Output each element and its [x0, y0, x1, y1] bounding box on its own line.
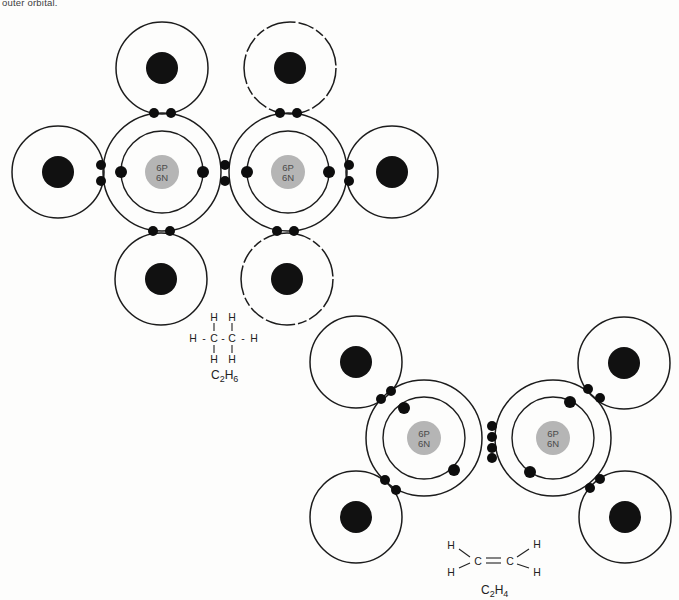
ethylene-structural-formula-label: C2H4 [481, 583, 508, 599]
ethane-hydrogen-right-nucleus [376, 156, 408, 188]
ethane-hydrogen-bottom-right [241, 233, 333, 325]
ethylene-structural-formula-atom-5: H [533, 538, 541, 550]
ethane-structural-formula-atom-10: H [210, 353, 218, 365]
ethane-hydrogen-top-right [244, 22, 336, 114]
ethane-hydrogen-top-left [116, 22, 208, 114]
ethane-bond-electron-1 [149, 108, 159, 118]
ethane-hydrogen-bottom-right-nucleus [271, 263, 303, 295]
ethylene-structural-formula-atom-1: H [447, 539, 455, 551]
ethylene-bond-electron-12 [487, 453, 497, 463]
ethylene-structural-formula-atom-4: C [506, 555, 514, 567]
ethane-structural-formula-label: C2H6 [211, 368, 238, 384]
ethane-hydrogen-right [346, 126, 438, 218]
ethylene-carbon-right-neutron-label: 6N [547, 438, 559, 449]
ethylene-bond-electron-6 [595, 393, 605, 403]
ethylene-bond-electron-9 [487, 421, 497, 431]
ethylene-inner-electron-3 [564, 396, 576, 408]
ethane-inner-electron-2 [197, 166, 209, 178]
ethane-carbon-left-neutron-label: 6N [156, 172, 168, 183]
ethane-structural-formula-atom-5: C [210, 332, 218, 344]
ethane-structural-formula-atom-3: H [189, 332, 197, 344]
ethylene-structural-formula: HHCCHHC2H4 [447, 538, 541, 599]
ethane-hydrogen-left [12, 126, 104, 218]
ethylene-carbon-left-neutron-label: 6N [418, 438, 430, 449]
ethane-structural-formula-atom-11: H [228, 353, 236, 365]
ethane-hydrogen-bottom-left [115, 233, 207, 325]
ethylene-structural-formula-bond-2 [459, 563, 470, 568]
ethane-bond-electron-14 [220, 176, 230, 186]
ethylene-structural-formula-bond-3 [517, 549, 529, 557]
ethane-bond-electron-13 [220, 160, 230, 170]
ethylene-structural-formula-atom-3: C [474, 555, 482, 567]
ethylene-bond-electron-7 [585, 483, 595, 493]
ethylene-bond-electron-4 [391, 485, 401, 495]
ethane-structural-formula-atom-7: C [228, 332, 236, 344]
ethylene-hydrogen-bottom-left-nucleus [340, 501, 372, 533]
ethylene-inner-electron-4 [524, 466, 536, 478]
ethane-bond-electron-11 [272, 226, 282, 236]
ethane-structural-formula: HHH-C-C-HHHC2H6 [189, 311, 258, 384]
ethane-bond-electron-4 [292, 108, 302, 118]
ethylene-bond-electron-8 [595, 474, 605, 484]
textbook-figure-page: outer orbital. 6P6N6P6N6P6N6P6NHHH-C-C-H… [0, 0, 679, 600]
ethylene-bond-electron-2 [386, 386, 396, 396]
ethylene-bond-electron-1 [376, 394, 386, 404]
ethane-bond-electron-5 [96, 160, 106, 170]
ethane-bond-electron-3 [275, 108, 285, 118]
ethylene-carbon-right: 6P6N [495, 380, 611, 496]
ethylene-structural-formula-bond-4 [517, 564, 529, 568]
ethane-inner-electron-4 [323, 166, 335, 178]
ethane-bond-electron-7 [344, 160, 354, 170]
ethane-structural-formula-atom-2: H [228, 311, 236, 323]
ethane-hydrogen-top-left-nucleus [146, 52, 178, 84]
ethylene-inner-electron-2 [448, 464, 460, 476]
ethylene-bond-electron-11 [487, 443, 497, 453]
ethylene-structural-formula-atom-2: H [447, 566, 455, 578]
ethane-structural-formula-atom-6: - [221, 332, 225, 344]
ethylene-structural-formula-bond-1 [459, 549, 470, 557]
ethane-inner-electron-1 [115, 166, 127, 178]
ethane-inner-electron-3 [241, 166, 253, 178]
ethylene-inner-electron-1 [398, 402, 410, 414]
ethylene-bond-electron-10 [487, 432, 497, 442]
ethylene-hydrogen-top-right-nucleus [608, 347, 640, 379]
ethane-structural-formula-atom-4: - [202, 332, 206, 344]
ethane-structural-formula-atom-8: - [241, 332, 245, 344]
ethane-structural-formula-atom-9: H [250, 332, 258, 344]
ethylene-hydrogen-bottom-left [310, 471, 402, 563]
ethane-bond-electron-10 [165, 226, 175, 236]
ethane-hydrogen-bottom-left-nucleus [145, 263, 177, 295]
ethane-bond-electron-12 [289, 226, 299, 236]
bohr-diagram: 6P6N6P6N6P6N6P6NHHH-C-C-HHHC2H6HHCCHHC2H… [0, 0, 679, 600]
ethylene-diagram: 6P6N6P6N [310, 316, 671, 563]
ethylene-hydrogen-bottom-right-nucleus [609, 501, 641, 533]
ethylene-hydrogen-top-left-nucleus [340, 346, 372, 378]
ethane-carbon-right-neutron-label: 6N [282, 172, 294, 183]
ethylene-bond-electron-3 [380, 475, 390, 485]
ethane-bond-electron-2 [166, 108, 176, 118]
ethane-bond-electron-9 [148, 226, 158, 236]
ethane-structural-formula-atom-1: H [210, 311, 218, 323]
ethane-bond-electron-6 [96, 176, 106, 186]
ethylene-bond-electron-5 [583, 384, 593, 394]
ethane-hydrogen-left-nucleus [42, 156, 74, 188]
ethane-bond-electron-8 [344, 176, 354, 186]
ethylene-structural-formula-atom-6: H [533, 566, 541, 578]
ethane-hydrogen-top-right-nucleus [274, 52, 306, 84]
ethane-diagram: 6P6N6P6N [12, 22, 438, 325]
